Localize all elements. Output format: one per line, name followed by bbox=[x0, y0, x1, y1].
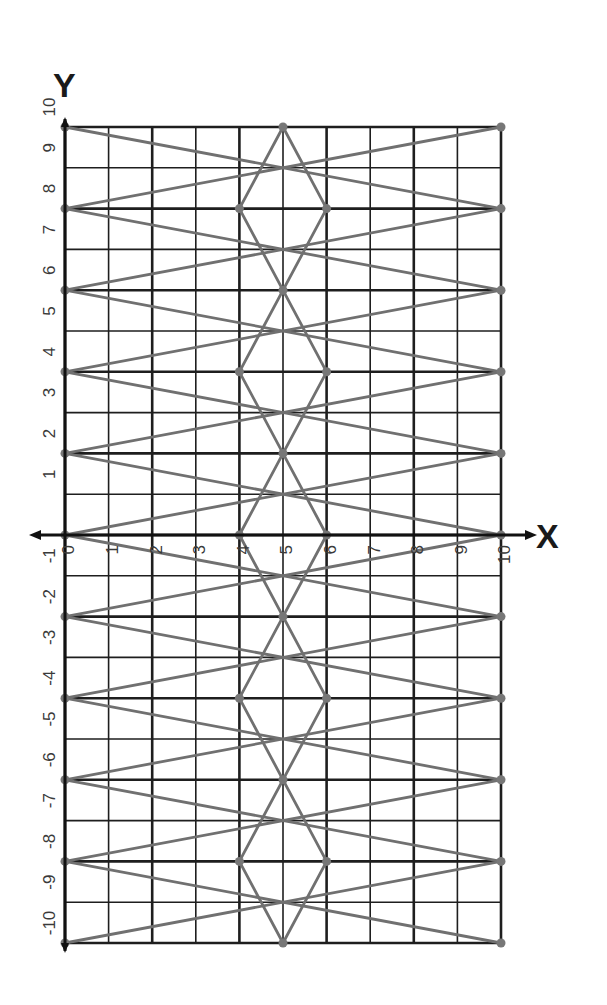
vertex-point bbox=[279, 123, 288, 132]
y-tick-label: -7 bbox=[40, 793, 59, 808]
vertex-point bbox=[497, 204, 506, 213]
y-axis-title: Y bbox=[53, 66, 76, 104]
x-tick-label: 10 bbox=[495, 545, 514, 564]
vertex-point bbox=[322, 857, 331, 866]
y-axis-arrow-up-icon bbox=[61, 117, 69, 127]
y-tick-label: -5 bbox=[40, 711, 59, 726]
y-tick-label: -4 bbox=[40, 671, 59, 686]
x-tick-label: 4 bbox=[234, 545, 253, 554]
vertex-point bbox=[235, 694, 244, 703]
y-tick-label: -6 bbox=[40, 752, 59, 767]
y-tick-label: 2 bbox=[40, 429, 59, 438]
vertex-point bbox=[279, 775, 288, 784]
y-tick-label: 1 bbox=[40, 469, 59, 478]
x-tick-label: 8 bbox=[408, 545, 427, 554]
vertex-point bbox=[497, 775, 506, 784]
vertex-point bbox=[497, 123, 506, 132]
vertex-point bbox=[322, 204, 331, 213]
x-tick-label: 1 bbox=[103, 545, 122, 554]
x-axis-title: X bbox=[536, 517, 559, 555]
vertex-point bbox=[322, 694, 331, 703]
y-tick-label: 9 bbox=[40, 143, 59, 152]
x-tick-label: 7 bbox=[365, 545, 384, 554]
y-tick-label: 6 bbox=[40, 265, 59, 274]
vertex-point bbox=[497, 286, 506, 295]
vertex-point bbox=[235, 857, 244, 866]
vertex-point bbox=[497, 694, 506, 703]
x-tick-label: 6 bbox=[321, 545, 340, 554]
x-tick-label: 9 bbox=[452, 545, 471, 554]
vertex-point bbox=[235, 367, 244, 376]
y-tick-label: -10 bbox=[40, 911, 59, 936]
x-axis-arrow-left-icon bbox=[29, 530, 41, 540]
vertex-point bbox=[497, 857, 506, 866]
y-tick-label: -8 bbox=[40, 834, 59, 849]
vertex-point bbox=[279, 286, 288, 295]
y-tick-label: 3 bbox=[40, 388, 59, 397]
y-tick-label: 7 bbox=[40, 225, 59, 234]
y-tick-label: -2 bbox=[40, 589, 59, 604]
vertex-point bbox=[235, 204, 244, 213]
y-tick-label: -9 bbox=[40, 875, 59, 890]
y-tick-label: -1 bbox=[40, 548, 59, 563]
y-tick-label: 5 bbox=[40, 306, 59, 315]
x-tick-label: 5 bbox=[277, 545, 296, 554]
vertex-point bbox=[279, 449, 288, 458]
tick-labels: 012345678910-10-9-8-7-6-5-4-3-2-11234567… bbox=[40, 98, 514, 936]
vertex-point bbox=[497, 612, 506, 621]
x-tick-label: 3 bbox=[190, 545, 209, 554]
vertex-point bbox=[497, 449, 506, 458]
coordinate-grid-chart: 012345678910-10-9-8-7-6-5-4-3-2-11234567… bbox=[0, 0, 607, 1005]
x-tick-label: 2 bbox=[147, 545, 166, 554]
y-tick-label: -3 bbox=[40, 630, 59, 645]
x-tick-label: 0 bbox=[59, 545, 78, 554]
vertex-point bbox=[497, 939, 506, 948]
vertex-point bbox=[279, 612, 288, 621]
vertex-point bbox=[322, 367, 331, 376]
y-tick-label: 4 bbox=[40, 347, 59, 356]
y-axis-arrow-down-icon bbox=[61, 943, 69, 953]
y-tick-label: 8 bbox=[40, 184, 59, 193]
vertex-point bbox=[497, 367, 506, 376]
vertex-point bbox=[279, 939, 288, 948]
